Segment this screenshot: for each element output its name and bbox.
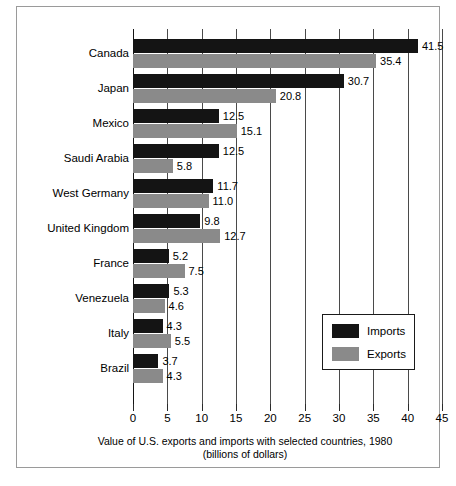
x-tick-label-25: 25	[298, 412, 311, 424]
bar-group-mexico: 12.515.1	[133, 109, 442, 144]
category-label-japan: Japan	[33, 82, 129, 94]
category-labels: CanadaJapanMexicoSaudi ArabiaWest German…	[27, 29, 129, 404]
bar-value-exports-france: 7.5	[185, 264, 204, 278]
bar-imports-france	[133, 249, 169, 263]
bar-imports-west-germany	[133, 179, 213, 193]
bar-value-imports-japan: 30.7	[344, 74, 369, 88]
bar-value-imports-italy: 4.3	[163, 319, 182, 333]
x-tick-label-20: 20	[264, 412, 277, 424]
caption-line-1: Value of U.S. exports and imports with s…	[43, 435, 447, 448]
category-label-venezuela: Venezuela	[33, 292, 129, 304]
x-tick-label-0: 0	[130, 412, 136, 424]
gridline-45	[442, 29, 443, 404]
bar-imports-italy	[133, 319, 163, 333]
category-label-france: France	[33, 257, 129, 269]
bar-exports-brazil	[133, 369, 163, 383]
bar-value-imports-united-kingdom: 9.8	[200, 214, 219, 228]
bar-value-exports-brazil: 4.3	[163, 369, 182, 383]
bar-exports-united-kingdom	[133, 229, 220, 243]
bar-value-exports-united-kingdom: 12.7	[220, 229, 245, 243]
x-tick-5	[167, 404, 168, 411]
bar-exports-venezuela	[133, 299, 165, 313]
x-tick-label-35: 35	[367, 412, 380, 424]
bar-group-japan: 30.720.8	[133, 74, 442, 109]
bar-value-exports-japan: 20.8	[276, 89, 301, 103]
category-label-mexico: Mexico	[33, 117, 129, 129]
x-tick-label-5: 5	[164, 412, 170, 424]
bar-value-imports-saudi-arabia: 12.5	[219, 144, 244, 158]
category-label-brazil: Brazil	[33, 362, 129, 374]
bar-value-exports-venezuela: 4.6	[165, 299, 184, 313]
x-tick-label-10: 10	[195, 412, 208, 424]
bar-value-imports-west-germany: 11.7	[213, 179, 238, 193]
x-tick-30	[339, 404, 340, 411]
bar-value-exports-italy: 5.5	[171, 334, 190, 348]
bar-exports-mexico	[133, 124, 237, 138]
bar-imports-brazil	[133, 354, 158, 368]
bar-exports-west-germany	[133, 194, 209, 208]
x-tick-45	[442, 404, 443, 411]
bar-value-exports-canada: 35.4	[376, 54, 401, 68]
bar-exports-italy	[133, 334, 171, 348]
x-tick-15	[236, 404, 237, 411]
bar-group-saudi-arabia: 12.55.8	[133, 144, 442, 179]
legend-swatch-imports	[332, 324, 359, 338]
bar-group-france: 5.27.5	[133, 249, 442, 284]
category-label-canada: Canada	[33, 47, 129, 59]
x-axis-tick-labels: 051015202530354045	[133, 412, 442, 428]
category-label-italy: Italy	[33, 327, 129, 339]
chart-frame: CanadaJapanMexicoSaudi ArabiaWest German…	[16, 6, 440, 468]
bar-value-exports-saudi-arabia: 5.8	[173, 159, 192, 173]
category-label-united-kingdom: United Kingdom	[33, 222, 129, 234]
bar-imports-saudi-arabia	[133, 144, 219, 158]
bar-value-exports-west-germany: 11.0	[209, 194, 234, 208]
bar-imports-united-kingdom	[133, 214, 200, 228]
x-tick-10	[202, 404, 203, 411]
legend-swatch-exports	[332, 347, 359, 361]
bar-exports-japan	[133, 89, 276, 103]
chart-legend: ImportsExports	[322, 314, 415, 370]
caption-line-2: (billions of dollars)	[43, 448, 447, 461]
x-tick-20	[270, 404, 271, 411]
chart-caption: Value of U.S. exports and imports with s…	[43, 435, 447, 461]
bar-imports-venezuela	[133, 284, 169, 298]
x-tick-label-40: 40	[401, 412, 414, 424]
legend-item-imports: Imports	[332, 323, 405, 338]
x-tick-0	[133, 404, 134, 411]
x-tick-35	[373, 404, 374, 411]
x-tick-label-45: 45	[436, 412, 449, 424]
category-label-saudi-arabia: Saudi Arabia	[33, 152, 129, 164]
bar-value-imports-france: 5.2	[169, 249, 188, 263]
bar-exports-canada	[133, 54, 376, 68]
bar-imports-canada	[133, 39, 418, 53]
x-tick-25	[305, 404, 306, 411]
bar-group-canada: 41.535.4	[133, 39, 442, 74]
legend-label-imports: Imports	[367, 325, 405, 337]
legend-item-exports: Exports	[332, 346, 406, 361]
bar-imports-mexico	[133, 109, 219, 123]
bar-imports-japan	[133, 74, 344, 88]
legend-label-exports: Exports	[367, 348, 406, 360]
bar-exports-saudi-arabia	[133, 159, 173, 173]
bar-group-united-kingdom: 9.812.7	[133, 214, 442, 249]
x-tick-40	[408, 404, 409, 411]
bar-exports-france	[133, 264, 185, 278]
bar-value-exports-mexico: 15.1	[237, 124, 262, 138]
bar-group-west-germany: 11.711.0	[133, 179, 442, 214]
bar-value-imports-mexico: 12.5	[219, 109, 244, 123]
bar-value-imports-canada: 41.5	[418, 39, 443, 53]
x-tick-label-30: 30	[333, 412, 346, 424]
x-tick-label-15: 15	[230, 412, 243, 424]
bar-value-imports-venezuela: 5.3	[169, 284, 188, 298]
category-label-west-germany: West Germany	[33, 187, 129, 199]
bar-value-imports-brazil: 3.7	[158, 354, 177, 368]
